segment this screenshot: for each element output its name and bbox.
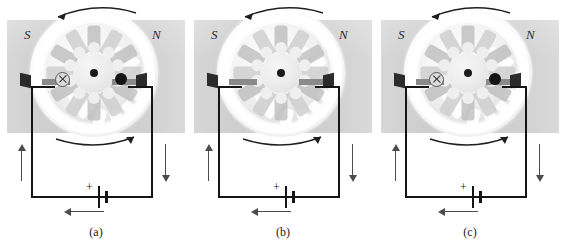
cross-icon xyxy=(430,73,443,86)
wire-top-right xyxy=(128,86,153,88)
wire-bottom xyxy=(405,196,527,198)
wire-right xyxy=(151,86,153,198)
brush-left xyxy=(207,73,218,89)
axle-center-dot xyxy=(90,69,98,77)
panel-b: S N + xyxy=(187,0,379,249)
motor-commutator-figure: S N + xyxy=(0,0,575,249)
armature-tooth xyxy=(120,99,141,120)
current-into-page-marker xyxy=(429,72,444,87)
panel-label-b: (b) xyxy=(187,225,379,240)
wire-top-left xyxy=(31,86,55,88)
panel-label-c: (c) xyxy=(374,225,566,240)
panel-a: S N + xyxy=(0,0,192,249)
panel-label-a: (a) xyxy=(0,225,192,240)
wire-top-right xyxy=(315,86,340,88)
brush-left xyxy=(20,73,31,89)
battery-plus-label: + xyxy=(460,180,467,195)
wire-bottom xyxy=(31,196,153,198)
wire-right xyxy=(338,86,340,198)
current-into-page-marker xyxy=(55,72,70,87)
rotation-arrow-top xyxy=(426,4,516,22)
dot-icon xyxy=(489,73,501,85)
armature-tooth xyxy=(307,99,328,120)
armature-assembly xyxy=(404,9,532,137)
battery-negative-plate xyxy=(292,191,295,203)
hub-winding-bump xyxy=(462,42,474,54)
brush-left xyxy=(394,73,405,89)
rotation-arrow-bottom xyxy=(426,133,516,151)
panel-c: S N + xyxy=(374,0,566,249)
wire-top-left xyxy=(405,86,429,88)
rotation-arrow-bottom xyxy=(52,133,142,151)
wire-left xyxy=(218,86,220,198)
wire-left xyxy=(405,86,407,198)
rotation-arrow-bottom xyxy=(239,133,329,151)
battery-negative-plate xyxy=(479,191,482,203)
battery-plus-label: + xyxy=(273,180,280,195)
hub-winding-bump xyxy=(462,92,474,104)
armature-assembly xyxy=(217,9,345,137)
axle-center-dot xyxy=(464,69,472,77)
cross-icon xyxy=(56,73,69,86)
battery-positive-plate xyxy=(472,186,474,208)
wire-right xyxy=(525,86,527,198)
hub-winding-bump xyxy=(275,42,287,54)
rotation-arrow-top xyxy=(239,4,329,22)
armature-assembly xyxy=(30,9,158,137)
commutator-bar-left xyxy=(229,79,257,85)
battery-positive-plate xyxy=(98,186,100,208)
battery-plus-label: + xyxy=(86,180,93,195)
rotation-arrow-top xyxy=(52,4,142,22)
battery-positive-plate xyxy=(285,186,287,208)
wire-top-right xyxy=(502,86,527,88)
hub-winding-bump xyxy=(88,92,100,104)
wire-top-left xyxy=(218,86,242,88)
hub-winding-bump xyxy=(275,92,287,104)
wire-left xyxy=(31,86,33,198)
battery-negative-plate xyxy=(105,191,108,203)
wire-bottom xyxy=(218,196,340,198)
armature-tooth xyxy=(494,99,515,120)
current-out-of-page-marker xyxy=(489,73,501,85)
axle-center-dot xyxy=(277,69,285,77)
dot-icon xyxy=(115,73,127,85)
current-out-of-page-marker xyxy=(115,73,127,85)
hub-winding-bump xyxy=(88,42,100,54)
